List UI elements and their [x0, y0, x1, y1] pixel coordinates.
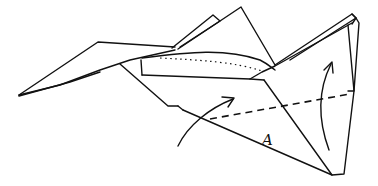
upper-panels [172, 7, 359, 91]
arrow-right-curve-icon [321, 62, 333, 150]
arrow-left-curve-icon [178, 97, 234, 146]
origami-diagram: A [0, 0, 378, 186]
flap-label-a: A [260, 131, 273, 149]
lower-flap [120, 60, 178, 106]
left-wing [19, 42, 175, 96]
main-triangle [178, 25, 354, 175]
fuselage [142, 23, 352, 80]
